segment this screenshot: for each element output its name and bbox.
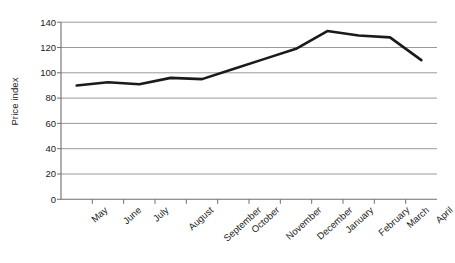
- gridlines: [61, 22, 437, 174]
- y-axis-ticks: [57, 22, 61, 199]
- price-index-series-line: [77, 31, 422, 85]
- x-axis-ticks: [92, 199, 405, 204]
